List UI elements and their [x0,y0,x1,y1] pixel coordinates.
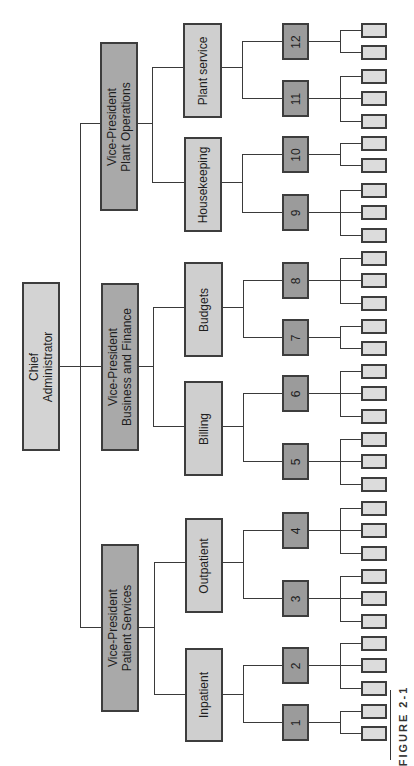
connector-leaf [340,303,361,304]
connector-leaves-spine [340,711,341,733]
connector-leaves-spine [340,326,341,348]
connector-unit-4 [243,530,282,531]
leaf-position-box [361,614,387,629]
leaf-position-box [361,409,387,424]
connector-leaf [340,280,361,281]
connector-leaf [340,643,361,644]
connector-unit-11 [242,98,282,99]
leaf-position-box [361,546,387,561]
leaf-position-box [361,658,387,673]
connector-units-spine [243,530,244,598]
leaf-position-box [361,386,387,401]
dept-plant-service-label: Plant service [195,36,209,105]
connector-unit-5 [243,461,282,462]
connector-unit-8 [243,280,282,281]
connector-leaf [340,98,361,99]
connector-leaf [340,212,361,213]
connector-unit-to-leaves [309,337,340,338]
leaf-position-box [361,205,387,220]
connector-leaf [340,165,361,166]
connector-plant-service [152,67,183,68]
connector-unit-to-leaves [309,722,340,723]
unit-box-10: 10 [282,136,309,173]
connector-unit-6 [243,393,282,394]
leaf-position-box [361,454,387,469]
connector-leaf [340,348,361,349]
leaf-position-box [361,183,387,198]
leaf-position-box [361,251,387,266]
connector-units-spine [243,665,244,722]
dept-outpatient-box: Outpatient [185,518,223,613]
connector-leaf [340,439,361,440]
connector-leaves-spine [340,30,341,52]
unit-number-label: 7 [288,334,302,341]
connector-leaf [340,553,361,554]
connector-unit-to-leaves [309,530,340,531]
connector-leaves-spine [340,143,341,165]
connector-vp-spine [80,123,81,627]
vp-patient-services-box: Vice-President Patient Services [101,544,139,712]
connector-leaf [340,235,361,236]
leaf-position-box [361,501,387,516]
figure-caption: FIGURE 2-1 [388,690,414,762]
dept-housekeeping-label: Housekeeping [196,146,210,223]
dept-inpatient-box: Inpatient [185,648,223,742]
connector-patient-depts [139,627,154,628]
leaf-position-box [361,432,387,447]
connector-leaf [340,416,361,417]
connector-units-spine [243,280,244,337]
connector-unit-to-leaves [309,212,340,213]
unit-number-label: 8 [288,277,302,284]
unit-box-6: 6 [282,375,309,412]
connector-leaf [340,576,361,577]
connector-leaf [340,76,361,77]
leaf-position-box [361,228,387,243]
connector-dept-to-units [223,562,243,563]
unit-number-label: 10 [288,148,302,161]
connector-unit-10 [242,154,282,155]
leaf-position-box [361,319,387,334]
connector-billing [153,426,184,427]
connector-dept-to-units [223,307,243,308]
dept-budgets-box: Budgets [184,262,223,357]
leaf-position-box [361,45,387,60]
connector-unit-to-leaves [309,154,340,155]
connector-leaf [340,52,361,53]
unit-box-8: 8 [282,262,309,299]
figure-caption-rule [390,690,391,760]
connector-budgets [153,307,184,308]
vp-business-finance-box: Vice-President Business and Finance [101,283,139,451]
connector-unit-to-leaves [309,41,340,42]
unit-box-11: 11 [282,80,309,117]
connector-unit-2 [243,665,282,666]
connector-patient-depts-spine [154,562,155,694]
unit-box-4: 4 [282,512,309,549]
connector-inpatient [154,694,185,695]
unit-number-label: 12 [288,35,302,48]
connector-leaf [340,733,361,734]
connector-unit-to-leaves [309,280,340,281]
connector-unit-1 [243,722,282,723]
unit-number-label: 2 [288,662,302,669]
connector-dept-to-units [222,67,242,68]
connector-leaf [340,665,361,666]
connector-leaf [340,258,361,259]
connector-unit-3 [243,598,282,599]
connector-dept-to-units [222,182,242,183]
dept-housekeeping-box: Housekeeping [184,137,222,232]
connector-leaf [340,598,361,599]
dept-plant-service-box: Plant service [183,23,222,118]
connector-outpatient [154,562,185,563]
connector-leaf [340,484,361,485]
unit-box-2: 2 [282,647,309,684]
connector-plant-depts-spine [152,67,153,183]
connector-vp-plant [80,123,100,124]
chief-administrator-box: Chief Administrator [22,282,60,451]
leaf-position-box [361,704,387,719]
unit-box-3: 3 [282,580,309,617]
leaf-position-box [361,636,387,651]
connector-unit-to-leaves [309,98,340,99]
connector-vp-patient [80,627,101,628]
dept-budgets-label: Budgets [196,287,210,331]
leaf-position-box [361,523,387,538]
